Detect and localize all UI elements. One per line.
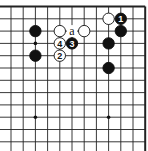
black-stone bbox=[103, 62, 114, 73]
black-stone bbox=[103, 38, 114, 49]
board-mark-label: a bbox=[69, 24, 75, 38]
go-board-diagram: a1432 bbox=[0, 0, 148, 151]
star-point bbox=[34, 115, 38, 119]
star-point bbox=[107, 115, 111, 119]
move-number: 3 bbox=[69, 39, 74, 49]
white-stone bbox=[103, 13, 114, 24]
black-stone bbox=[30, 25, 41, 36]
black-stone bbox=[115, 25, 126, 36]
black-stone bbox=[30, 50, 41, 61]
white-stone bbox=[79, 25, 90, 36]
move-number: 1 bbox=[118, 14, 123, 24]
move-number: 2 bbox=[57, 51, 62, 61]
star-point bbox=[34, 42, 38, 46]
white-stone bbox=[54, 25, 65, 36]
move-number: 4 bbox=[57, 39, 62, 49]
